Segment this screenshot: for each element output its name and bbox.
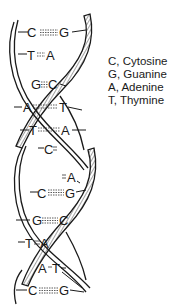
base-pair-1: C G — [18, 25, 86, 40]
legend-item-adenine: A, Adenine — [108, 81, 167, 94]
base-left: T — [29, 123, 37, 138]
base-pair-7: A — [62, 170, 80, 185]
base-left: G — [31, 77, 41, 92]
base-left: A — [23, 100, 32, 115]
base-pair-6: C — [38, 142, 57, 157]
base-left: A — [38, 261, 47, 276]
base-left: C — [44, 142, 53, 157]
legend-item-guanine: G, Guanine — [108, 68, 167, 81]
base-right: C — [59, 213, 68, 228]
base-right: A — [40, 236, 49, 251]
base-left: T — [27, 48, 35, 63]
dna-helix-diagram: C G T A G C A T — [0, 0, 100, 307]
base-right: T — [59, 100, 67, 115]
base-right: A — [61, 123, 70, 138]
base-pair-10: T A — [18, 236, 49, 251]
base-right: A — [46, 48, 55, 63]
base-left: C — [27, 25, 36, 40]
base-left: T — [25, 236, 33, 251]
base-right: T — [52, 261, 60, 276]
base-right: C — [48, 77, 57, 92]
base-right: G — [65, 186, 75, 201]
base-pair-8: C G — [30, 186, 86, 201]
base-right: G — [59, 25, 69, 40]
legend: C, Cytosine G, Guanine A, Adenine T, Thy… — [108, 55, 167, 107]
legend-item-cytosine: C, Cytosine — [108, 55, 167, 68]
base-pair-2: T A — [18, 48, 55, 63]
base-left: G — [32, 213, 42, 228]
base-right: A — [67, 170, 76, 185]
base-right: G — [59, 283, 69, 298]
base-left: C — [37, 186, 46, 201]
base-left: C — [28, 283, 37, 298]
legend-item-thymine: T, Thymine — [108, 94, 167, 107]
